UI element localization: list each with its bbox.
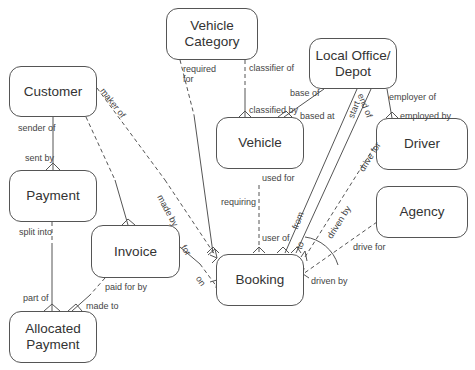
- label-classifier-of: classifier of: [249, 63, 294, 73]
- entity-vehicle[interactable]: Vehicle: [216, 117, 304, 169]
- label-required-for: required for: [183, 64, 216, 84]
- label-classified-by: classified by: [249, 105, 298, 115]
- label-driven-by-agency: driven by: [311, 276, 348, 286]
- entity-agency[interactable]: Agency: [376, 186, 468, 238]
- label-based-at: based at: [300, 111, 335, 121]
- label-base-of: base of: [290, 88, 320, 98]
- entity-payment[interactable]: Payment: [9, 170, 97, 222]
- label-employer-of: employer of: [389, 92, 436, 102]
- label-requiring: requiring: [221, 197, 256, 207]
- entity-customer[interactable]: Customer: [9, 66, 97, 117]
- entity-driver[interactable]: Driver: [376, 118, 468, 170]
- entity-local-office-depot[interactable]: Local Office/ Depot: [309, 38, 397, 89]
- entity-invoice[interactable]: Invoice: [91, 225, 180, 278]
- label-split-into: split into: [19, 227, 52, 237]
- label-sent-by: sent by: [25, 153, 54, 163]
- entity-allocated-payment[interactable]: Allocated Payment: [9, 311, 97, 363]
- label-sender-of: sender of: [18, 123, 56, 133]
- label-made-to: made to: [86, 301, 119, 311]
- label-drive-for-agency: drive for: [353, 242, 386, 252]
- label-paid-for-by: paid for by: [105, 282, 147, 292]
- label-used-for: used for: [262, 173, 295, 183]
- label-part-of: part of: [23, 293, 49, 303]
- entity-booking[interactable]: Booking: [216, 254, 304, 306]
- entity-vehicle-category[interactable]: Vehicle Category: [166, 8, 258, 60]
- label-employed-by: employed by: [400, 111, 451, 121]
- label-user-of: user of: [262, 233, 290, 243]
